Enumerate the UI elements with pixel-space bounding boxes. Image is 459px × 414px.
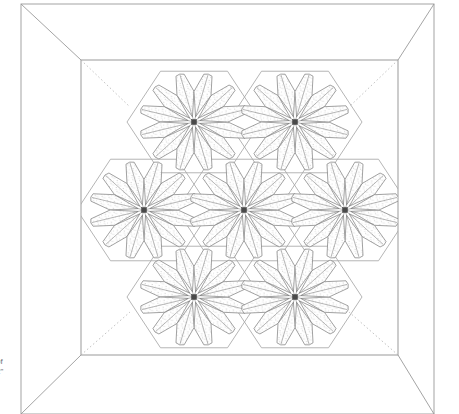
guide-bottom-right bbox=[349, 312, 398, 355]
dresden-flower bbox=[191, 162, 297, 258]
flower-center-hub bbox=[142, 208, 147, 213]
dresden-flower bbox=[292, 162, 398, 258]
caption-line-2: 2" bbox=[0, 367, 22, 377]
guide-top-right bbox=[349, 60, 398, 107]
flower-center-hub bbox=[192, 120, 197, 125]
quilt-diagram-canvas bbox=[0, 0, 459, 414]
flower-center-hub bbox=[293, 120, 298, 125]
guide-bottom-left bbox=[81, 312, 130, 355]
caption-line-1: of bbox=[0, 357, 22, 367]
quilt-pattern-diagram: of 2" bbox=[0, 0, 459, 414]
flower-center-hub bbox=[192, 295, 197, 300]
flower-center-hub bbox=[343, 208, 348, 213]
dresden-flower bbox=[91, 162, 197, 258]
miter-seam-top-right bbox=[398, 4, 434, 60]
flower-motif-layer bbox=[91, 74, 398, 345]
dresden-flower bbox=[242, 74, 348, 170]
miter-seam-bottom-left bbox=[21, 355, 81, 414]
diagram-caption: of 2" bbox=[0, 357, 22, 377]
flower-center-hub bbox=[242, 208, 247, 213]
miter-seam-top-left bbox=[21, 4, 81, 60]
dresden-flower bbox=[141, 249, 247, 345]
flower-center-hub bbox=[293, 295, 298, 300]
dresden-flower bbox=[141, 74, 247, 170]
miter-seam-bottom-right bbox=[398, 355, 434, 414]
dresden-flower bbox=[242, 249, 348, 345]
guide-top-left bbox=[81, 60, 130, 107]
